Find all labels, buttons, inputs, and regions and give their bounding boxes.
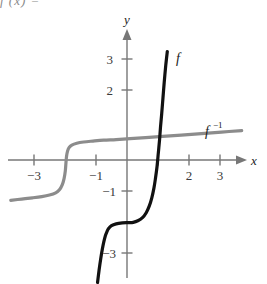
- y-axis-arrow: [123, 29, 132, 40]
- y-axis: y: [122, 12, 131, 278]
- x-tick-label-2: 2: [186, 168, 193, 183]
- curve-label-f-inverse-exponent: −1: [213, 120, 223, 130]
- x-tick-label-3: 3: [217, 168, 224, 183]
- curve-label-f-inverse: f −1: [205, 120, 223, 139]
- x-axis-arrow: [236, 156, 247, 165]
- curve-label-f: f: [176, 51, 182, 66]
- x-axis-label: x: [250, 153, 257, 168]
- x-tick-label--1: −1: [89, 168, 103, 183]
- y-tick-label-3: 3: [107, 52, 114, 67]
- x-tick-label--3: −3: [27, 168, 41, 183]
- y-tick-label-2: 2: [107, 83, 114, 98]
- y-tick-label--1: −1: [102, 184, 116, 199]
- x-axis-ticks: −3 −1 2 3: [27, 155, 223, 184]
- curve-f-inverse: [11, 131, 242, 201]
- y-tick-label--3: −3: [102, 246, 116, 261]
- inverse-function-graph: x y −3 −1 2 3 3 2 −1 −3 f f −1: [0, 0, 267, 284]
- y-axis-label: y: [122, 12, 130, 27]
